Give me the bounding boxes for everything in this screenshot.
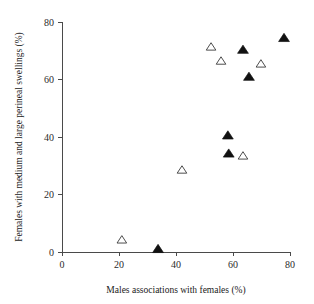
data-point-open-triangle-2 — [206, 43, 216, 50]
y-tick-label-40: 40 — [44, 132, 54, 143]
data-point-open-triangle-1 — [177, 166, 187, 173]
axes-group — [62, 22, 290, 252]
scatter-plot-figure: 020406080020406080 Males associations wi… — [0, 0, 314, 304]
x-tick-label-60: 60 — [228, 259, 238, 270]
tick-labels-group: 020406080020406080 — [44, 17, 295, 271]
data-point-filled-triangle-1 — [222, 131, 233, 139]
data-point-open-triangle-3 — [216, 57, 226, 64]
data-point-filled-triangle-4 — [244, 72, 255, 80]
x-tick-label-0: 0 — [60, 259, 65, 270]
data-markers-group — [117, 33, 289, 252]
x-tick-label-20: 20 — [114, 259, 124, 270]
x-axis-title: Males associations with females (%) — [106, 285, 245, 296]
data-point-open-triangle-0 — [117, 236, 127, 243]
ticks-group — [58, 22, 290, 256]
data-point-open-triangle-4 — [238, 152, 248, 159]
y-tick-label-20: 20 — [44, 189, 54, 200]
data-point-filled-triangle-5 — [279, 33, 290, 41]
data-point-open-triangle-5 — [256, 60, 266, 67]
x-tick-label-80: 80 — [285, 259, 295, 270]
data-point-filled-triangle-2 — [223, 149, 234, 157]
x-tick-label-40: 40 — [171, 259, 181, 270]
y-tick-label-80: 80 — [44, 17, 54, 28]
y-axis-title: Females with medium and large perineal s… — [14, 32, 25, 242]
data-point-filled-triangle-3 — [238, 45, 249, 53]
data-point-filled-triangle-0 — [153, 244, 164, 252]
y-tick-label-60: 60 — [44, 74, 54, 85]
y-tick-label-0: 0 — [49, 247, 54, 258]
plot-canvas: 020406080020406080 Males associations wi… — [0, 0, 314, 304]
